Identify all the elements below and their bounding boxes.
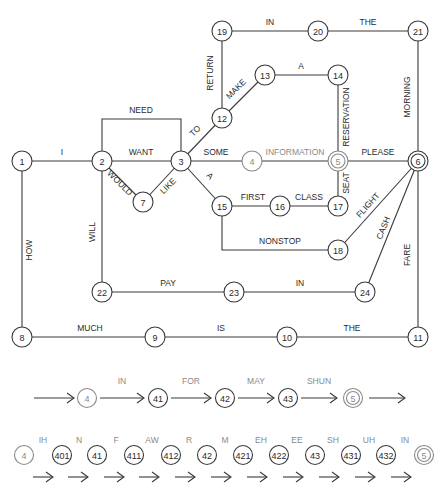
node-24: 24 (355, 282, 375, 302)
node-label: 43 (310, 451, 320, 461)
phone-arrow (283, 472, 303, 482)
word-node-5: 5 (344, 389, 363, 408)
node-label: 432 (378, 451, 393, 461)
phone-node-42: 42 (198, 446, 217, 465)
node-label: 41 (153, 394, 163, 404)
word-arrow: IN (100, 376, 144, 403)
edge-label: HOW (24, 240, 34, 261)
node-20: 20 (308, 21, 328, 41)
node-12: 12 (212, 108, 232, 128)
node-15: 15 (212, 196, 232, 216)
phone-node-4: 4 (15, 446, 34, 465)
edge-label: PAY (160, 278, 176, 288)
node-label: 21 (413, 27, 423, 37)
phone-label: EE (291, 435, 303, 445)
edge-label: THE (344, 323, 361, 333)
word-arrow: FOR (171, 376, 211, 403)
phone-label: UH (363, 435, 375, 445)
network-diagram: IWANTNEEDWOULDLIKESOMEINFORMATIONPLEASET… (0, 0, 442, 485)
phone-node-412: 412 (162, 446, 181, 465)
word-expansion-row: INFORMAYSHUN44142435 (34, 376, 405, 408)
node-label: 5 (350, 394, 355, 404)
node-6: 6 (408, 151, 428, 171)
edge-label: CASH (374, 215, 392, 241)
phone-label: IH (39, 435, 48, 445)
word-arrow: SHUN (301, 376, 337, 403)
word-node-41: 41 (149, 389, 168, 408)
node-23: 23 (224, 282, 244, 302)
phone-node-411: 411 (125, 446, 144, 465)
word-node-42: 42 (216, 389, 235, 408)
node-label: 4 (21, 451, 26, 461)
node-label: 19 (217, 27, 227, 37)
edge-label: WOULD (105, 168, 134, 197)
node-label: 421 (235, 451, 250, 461)
node-label: 22 (97, 288, 107, 298)
node-label: 23 (229, 288, 239, 298)
node-label: 12 (217, 114, 227, 124)
phone-label: EH (255, 435, 267, 445)
node-17: 17 (328, 196, 348, 216)
edge-label: THE (360, 17, 377, 27)
word-arrow-label: MAY (247, 376, 265, 386)
node-label: 422 (271, 451, 286, 461)
node-label: 9 (152, 333, 157, 343)
phone-node-422: 422 (270, 446, 289, 465)
phone-arrow (175, 472, 195, 482)
diagram-canvas: IWANTNEEDWOULDLIKESOMEINFORMATIONPLEASET… (0, 0, 442, 485)
phone-label: F (113, 435, 118, 445)
phone-node-5: 5 (415, 446, 434, 465)
edge-label: MUCH (77, 323, 103, 333)
phone-node-43: 43 (306, 446, 325, 465)
phone-arrow (247, 472, 267, 482)
phone-arrow (104, 472, 124, 482)
node-label: 16 (275, 202, 285, 212)
edge-label: IN (266, 17, 275, 27)
phone-node-41: 41 (88, 446, 107, 465)
node-label: 1 (19, 157, 24, 167)
edge-label: MAKE (224, 77, 248, 101)
node-label: 2 (99, 157, 104, 167)
node-label: 4 (249, 157, 254, 167)
edge-label: NEED (129, 105, 153, 115)
edge-label: NONSTOP (259, 236, 301, 246)
node-21: 21 (408, 21, 428, 41)
node-label: 43 (283, 394, 293, 404)
node-label: 412 (163, 451, 178, 461)
edge-label: WANT (129, 147, 154, 157)
node-label: 13 (260, 71, 270, 81)
phone-label: SH (327, 435, 339, 445)
node-label: 41 (92, 451, 102, 461)
node-16: 16 (270, 196, 290, 216)
node-9: 9 (145, 327, 165, 347)
edge-label: TO (187, 123, 203, 139)
phone-node-401: 401 (53, 446, 72, 465)
node-label: 3 (178, 157, 183, 167)
node-11: 11 (408, 327, 428, 347)
edge-24-6 (365, 161, 418, 292)
node-22: 22 (92, 282, 112, 302)
phone-arrow (139, 472, 159, 482)
edge-label: IN (296, 278, 305, 288)
word-arrow (369, 393, 405, 403)
phone-arrow (355, 472, 375, 482)
main-network-nodes: 123456789101112131415161718192021222324 (12, 21, 428, 347)
node-label: 11 (413, 333, 422, 343)
node-label: 18 (333, 246, 343, 256)
edge-label: WILL (87, 222, 97, 242)
node-label: 10 (282, 333, 292, 343)
node-label: 7 (140, 198, 145, 208)
node-5: 5 (328, 151, 348, 171)
edge-label: FARE (402, 244, 412, 267)
phone-node-431: 431 (342, 446, 361, 465)
phone-expansion-row: 44014141141242421422434314325IHNFAWRMEHE… (15, 435, 434, 482)
edge-label: MORNING (402, 76, 412, 117)
node-label: 5 (421, 451, 426, 461)
phone-label: M (221, 435, 228, 445)
phone-arrow (68, 472, 88, 482)
edge-label: INFORMATION (266, 147, 325, 157)
node-label: 20 (313, 27, 323, 37)
word-arrow: MAY (238, 376, 274, 403)
node-label: 411 (127, 451, 141, 461)
node-10: 10 (277, 327, 297, 347)
